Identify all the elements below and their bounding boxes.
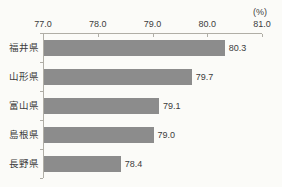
x-tick-label: 81.0 (253, 19, 271, 29)
bar (44, 98, 159, 114)
y-tick-mark (40, 62, 43, 63)
x-tick-mark (98, 34, 99, 37)
x-tick-mark (43, 34, 44, 37)
bar (44, 69, 192, 85)
x-tick-label: 79.0 (144, 19, 162, 29)
category-label: 長野県 (9, 156, 39, 172)
x-tick-label: 78.0 (89, 19, 107, 29)
unit-label: (%) (253, 7, 267, 17)
y-tick-mark (40, 120, 43, 121)
value-label: 78.4 (125, 156, 143, 172)
category-label: 島根県 (9, 127, 39, 143)
value-label: 79.0 (158, 127, 176, 143)
x-tick-label: 80.0 (198, 19, 216, 29)
y-tick-mark (40, 149, 43, 150)
y-tick-mark (40, 178, 43, 179)
x-tick-mark (153, 34, 154, 37)
value-label: 79.7 (196, 69, 214, 85)
bar (44, 40, 225, 56)
value-label: 79.1 (163, 98, 181, 114)
bar (44, 156, 121, 172)
category-label: 福井県 (9, 40, 39, 56)
x-tick-mark (262, 34, 263, 37)
bar (44, 127, 154, 143)
x-tick-mark (207, 34, 208, 37)
horizontal-bar-chart: (%) 77.078.079.080.081.080.3福井県79.7山形県79… (0, 0, 282, 187)
category-label: 山形県 (9, 69, 39, 85)
y-tick-mark (40, 33, 43, 34)
y-tick-mark (40, 91, 43, 92)
value-label: 80.3 (229, 40, 247, 56)
category-label: 富山県 (9, 98, 39, 114)
x-tick-label: 77.0 (34, 19, 52, 29)
